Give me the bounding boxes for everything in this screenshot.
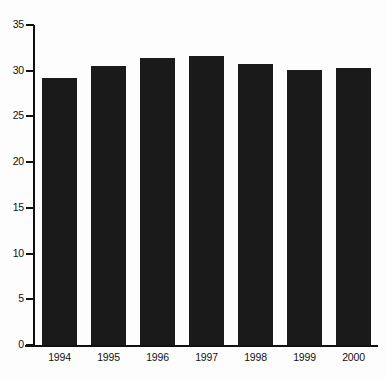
x-axis-tick-label: 2000 — [329, 352, 378, 363]
bar — [140, 58, 175, 345]
bar — [336, 68, 371, 345]
bar — [42, 78, 77, 345]
bar — [238, 64, 273, 345]
bars-layer — [0, 0, 386, 380]
x-axis-tick-label: 1999 — [280, 352, 329, 363]
bar — [287, 70, 322, 345]
bar-chart: 05101520253035 1994199519961997199819992… — [0, 0, 386, 380]
x-axis-tick-label: 1995 — [84, 352, 133, 363]
bar — [91, 66, 126, 345]
x-axis-tick-label: 1998 — [231, 352, 280, 363]
x-axis-tick-label: 1996 — [133, 352, 182, 363]
bar — [189, 56, 224, 345]
x-axis-tick-label: 1994 — [35, 352, 84, 363]
x-axis-tick-label: 1997 — [182, 352, 231, 363]
